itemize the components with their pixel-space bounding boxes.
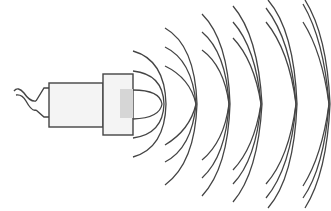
wavefronts [133,0,330,208]
cable-icon [14,89,36,110]
connector [36,88,49,117]
emitter-diagram [0,0,331,211]
diagram-canvas [0,0,331,211]
transducer-face [120,89,133,118]
emitter-body [49,83,103,127]
